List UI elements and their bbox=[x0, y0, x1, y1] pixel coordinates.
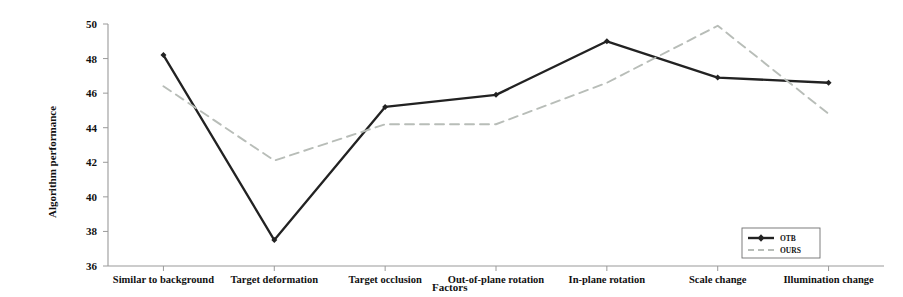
legend-label-ours: OURS bbox=[780, 246, 801, 255]
chart-container: 3638404244464850 Similar to backgroundTa… bbox=[0, 0, 903, 297]
series-markers bbox=[160, 38, 831, 243]
y-tick-labels: 3638404244464850 bbox=[86, 18, 98, 272]
chart-legend: OTB OURS bbox=[742, 228, 820, 258]
legend-label-otb: OTB bbox=[780, 234, 796, 243]
y-tick-label: 46 bbox=[86, 87, 98, 99]
x-tick-labels: Similar to backgroundTarget deformationT… bbox=[113, 274, 874, 285]
x-axis-title: Factors bbox=[432, 281, 468, 293]
data-point-otb-6 bbox=[826, 80, 832, 86]
y-tick-label: 44 bbox=[86, 122, 98, 134]
series-line-otb bbox=[163, 41, 828, 240]
x-tick-label: Scale change bbox=[689, 274, 747, 285]
x-tick-label: Target occlusion bbox=[348, 274, 422, 285]
y-tick-marks bbox=[103, 24, 108, 266]
y-tick-label: 38 bbox=[86, 225, 98, 237]
y-tick-label: 50 bbox=[86, 18, 98, 30]
x-tick-label: Similar to background bbox=[113, 274, 214, 285]
series-group bbox=[163, 26, 828, 240]
x-tick-marks bbox=[163, 266, 828, 271]
x-tick-label: In-plane rotation bbox=[569, 274, 646, 285]
y-tick-label: 36 bbox=[86, 260, 98, 272]
x-tick-label: Illumination change bbox=[783, 274, 873, 285]
y-tick-label: 48 bbox=[86, 53, 98, 65]
line-chart: 3638404244464850 Similar to backgroundTa… bbox=[0, 0, 903, 297]
y-tick-label: 40 bbox=[86, 191, 98, 203]
data-point-otb-5 bbox=[715, 75, 721, 81]
y-tick-label: 42 bbox=[86, 156, 98, 168]
x-tick-label: Target deformation bbox=[231, 274, 319, 285]
y-axis-title: Algorithm performance bbox=[46, 106, 58, 218]
